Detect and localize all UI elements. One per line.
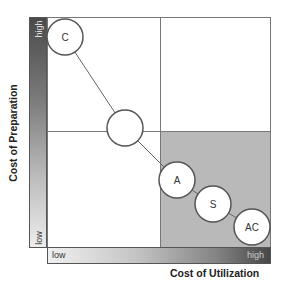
node-s: S [195,186,231,222]
node-path-overlay: CASAC [0,0,285,284]
node-a: A [159,162,195,198]
node-ac: AC [234,209,270,245]
svg-text:A: A [174,175,181,186]
node-blank [107,110,143,146]
svg-text:AC: AC [245,222,259,233]
svg-text:S: S [210,199,217,210]
svg-text:C: C [61,32,68,43]
node-c: C [47,19,83,55]
